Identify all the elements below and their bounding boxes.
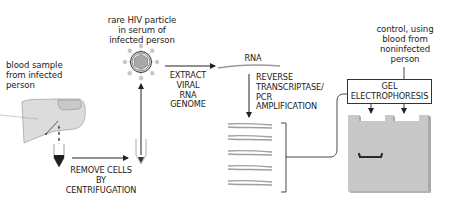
label-line: person (372, 54, 438, 64)
label-rna: RNA (241, 54, 265, 64)
label-gel-electrophoresis: GEL ELECTROPHORESIS (347, 82, 432, 102)
label-line: control, using (372, 24, 438, 34)
finger-icon (0, 99, 85, 147)
label-line: in serum of (104, 25, 180, 35)
gel-slab (348, 115, 431, 193)
label-line: blood from (372, 34, 438, 44)
label-line: from infected (6, 70, 63, 80)
label-remove-cells: REMOVE CELLS BY CENTRIFUGATION (60, 166, 142, 195)
label-line: CENTRIFUGATION (60, 186, 142, 196)
label-line: ELECTROPHORESIS (347, 92, 432, 102)
label-line: noninfected (372, 44, 438, 54)
hiv-particle-icon (123, 44, 159, 80)
label-line: blood sample (6, 60, 63, 70)
amplified-dna-copies (228, 124, 272, 185)
label-line: AMPLIFICATION (256, 102, 324, 112)
label-line: rare HIV particle (104, 15, 180, 25)
label-control: control, using blood from noninfected pe… (372, 24, 438, 64)
label-blood-sample: blood sample from infected person (6, 60, 63, 90)
label-rt-pcr: REVERSE TRANSCRIPTASE/ PCR AMPLIFICATION (256, 73, 324, 112)
label-extract-rna: EXTRACT VIRAL RNA GENOME (163, 71, 213, 110)
blood-tube-icon (54, 144, 64, 167)
label-line: GENOME (163, 100, 213, 110)
label-hiv-particle: rare HIV particle in serum of infected p… (104, 15, 180, 45)
rna-strand (218, 65, 280, 68)
label-line: person (6, 80, 63, 90)
label-line: infected person (104, 35, 180, 45)
